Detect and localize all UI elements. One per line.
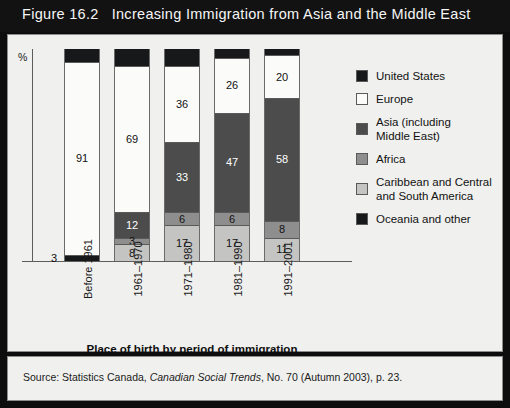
bar-segment: 12 [115, 212, 149, 237]
legend-swatch-icon [356, 183, 368, 195]
bar-5: 2058811 [264, 49, 300, 261]
bar-segment: 69 [115, 66, 149, 212]
page-title: Figure 16.2 Increasing Immigration from … [22, 6, 471, 22]
x-tick-text: Before 1961 [82, 239, 94, 299]
bar-segment [215, 49, 249, 57]
bar-segment [165, 49, 199, 66]
bar-segment-value: 26 [226, 80, 238, 91]
legend-item[interactable]: Oceania and other [356, 212, 504, 226]
legend-swatch-icon [356, 123, 368, 135]
x-tick-label: 1981–1990 [225, 267, 239, 347]
source-publication: Canadian Social Trends [150, 371, 261, 383]
bar-segment: 58 [265, 98, 299, 221]
bar-segment: 6 [165, 212, 199, 225]
x-tick-label: Before 1961 [75, 267, 89, 347]
legend-item[interactable]: Europe [356, 92, 504, 106]
legend-swatch-icon [356, 93, 368, 105]
legend-item[interactable]: Asia (includingMiddle East) [356, 115, 504, 143]
bar-segment: 6 [215, 212, 249, 225]
bar-1: 913 [64, 49, 100, 261]
x-tick-label: 1961–1970 [125, 267, 139, 347]
bar-2: 691238 [114, 49, 150, 261]
bar-segment [65, 49, 99, 62]
x-tick-label: 1991–2001 [275, 267, 289, 347]
bar-segment [115, 49, 149, 66]
source-suffix: , No. 70 (Autumn 2003), p. 23. [261, 371, 402, 383]
x-tick-text: 1961–1970 [132, 241, 144, 296]
x-tick-label: 1971–1980 [175, 267, 189, 347]
figure-container: Figure 16.2 Increasing Immigration from … [0, 0, 510, 408]
bar-segment: 8 [265, 221, 299, 238]
source-panel: Source: Statistics Canada, Canadian Soci… [7, 356, 503, 401]
figure-title-text: Increasing Immigration from Asia and the… [112, 6, 471, 22]
bar-segment-value: 6 [229, 214, 235, 225]
x-tick-text: 1981–1990 [232, 241, 244, 296]
bar-segment-value: 20 [276, 72, 288, 83]
bar-segment-value: 47 [226, 157, 238, 168]
chart-panel: % 913691238363361726476172058811 Before … [7, 34, 503, 352]
bar-segment: 91 [65, 62, 99, 255]
bar-segment: 47 [215, 113, 249, 213]
legend-item[interactable]: Africa [356, 152, 504, 166]
legend-swatch-icon [356, 153, 368, 165]
legend-item-label: Europe [376, 92, 413, 106]
bar-3: 3633617 [164, 49, 200, 261]
plot-area: 913691238363361726476172058811 [32, 49, 337, 261]
bar-segment: 36 [165, 66, 199, 142]
legend-item-label: Africa [376, 152, 405, 166]
bar-segment-value: 8 [279, 224, 285, 235]
bar-segment: 33 [165, 142, 199, 212]
legend-item-label: Oceania and other [376, 212, 471, 226]
x-tick-text: 1991–2001 [282, 241, 294, 296]
legend-item[interactable]: United States [356, 69, 504, 83]
bar-4: 2647617 [214, 49, 250, 261]
legend-item-label: Asia (includingMiddle East) [376, 115, 451, 143]
legend-swatch-icon [356, 213, 368, 225]
bar-segment-value: 6 [179, 214, 185, 225]
bar-segment: 20 [265, 55, 299, 97]
figure-title-bar: Figure 16.2 Increasing Immigration from … [0, 0, 510, 32]
bar-segment-value: 3 [51, 253, 57, 264]
bar-segment-value: 58 [276, 154, 288, 165]
legend-item[interactable]: Caribbean and Centraland South America [356, 175, 504, 203]
chart-legend: United StatesEuropeAsia (includingMiddle… [356, 69, 504, 235]
legend-item-label: Caribbean and Centraland South America [376, 175, 492, 203]
source-note: Source: Statistics Canada, Canadian Soci… [23, 371, 402, 383]
source-prefix: Source: Statistics Canada, [23, 371, 147, 383]
bar-segment-value: 69 [126, 134, 138, 145]
y-axis-unit-label: % [18, 51, 27, 63]
figure-number: Figure 16.2 [22, 6, 99, 22]
x-axis-title: Place of birth by period of immigration [32, 343, 352, 355]
bar-segment-value: 36 [176, 99, 188, 110]
bar-segment-value: 91 [76, 153, 88, 164]
bar-segment-value: 33 [176, 172, 188, 183]
legend-swatch-icon [356, 70, 368, 82]
bar-segment: 26 [215, 58, 249, 113]
legend-item-label: United States [376, 69, 445, 83]
bar-segment-value: 12 [126, 220, 138, 231]
x-tick-text: 1971–1980 [182, 241, 194, 296]
